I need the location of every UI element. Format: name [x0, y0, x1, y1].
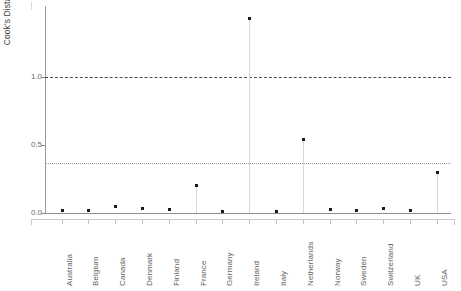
x-tick-label-denmark: Denmark	[146, 253, 154, 286]
y-tick-mark	[41, 213, 45, 214]
x-tick-label-australia: Australia	[66, 254, 74, 286]
stem-line	[437, 173, 438, 213]
data-point	[87, 209, 90, 212]
x-axis-zero-line	[45, 213, 451, 214]
x-tick-mark	[222, 220, 223, 224]
x-tick-label-sweden: Sweden	[360, 256, 368, 286]
y-tick-label: 0.5	[20, 141, 42, 149]
x-tick-label-france: France	[200, 261, 208, 287]
data-point	[141, 207, 144, 210]
x-tick-mark	[276, 220, 277, 224]
x-tick-label-netherlands: Netherlands	[307, 242, 315, 286]
x-tick-mark	[303, 220, 304, 224]
x-tick-mark	[410, 220, 411, 224]
y-tick-1.0: 1.0	[20, 73, 42, 81]
x-tick-label-norway: Norway	[334, 258, 342, 286]
data-point	[382, 207, 385, 210]
stem-line	[249, 19, 250, 213]
x-tick-label-ireland: Ireland	[253, 261, 261, 286]
x-tick-label-canada: Canada	[119, 257, 127, 286]
reference-line-threshold-low	[45, 163, 451, 164]
plot-outer-border-bottom	[31, 219, 455, 220]
x-tick-label-belgium: Belgium	[92, 256, 100, 286]
y-tick-label: 0.0	[20, 209, 42, 217]
data-point	[61, 209, 64, 212]
x-tick-mark	[437, 220, 438, 224]
y-tick-mark	[41, 145, 45, 146]
x-tick-label-germany: Germany	[226, 252, 234, 286]
data-point	[409, 209, 412, 212]
y-tick-0.5: 0.5	[20, 141, 42, 149]
x-tick-label-uk: UK	[414, 275, 422, 286]
plot-outer-border-left	[31, 219, 32, 225]
data-point	[168, 208, 171, 211]
reference-line-threshold-high	[45, 77, 451, 78]
y-tick-label: 1.0	[20, 73, 42, 81]
data-point	[114, 205, 117, 208]
x-tick-label-switzerland: Switzerland	[387, 244, 395, 286]
x-tick-mark	[169, 220, 170, 224]
data-point	[275, 210, 278, 213]
data-point	[436, 171, 439, 174]
x-tick-mark	[88, 220, 89, 224]
x-tick-label-italy: Italy	[280, 271, 288, 286]
x-tick-mark	[330, 220, 331, 224]
x-tick-mark	[383, 220, 384, 224]
cooks-distance-chart: Cook's Distance 0.00.51.0 AustraliaBelgi…	[0, 0, 461, 291]
stem-line	[303, 140, 304, 213]
plot-outer-border-right	[454, 219, 455, 225]
x-tick-label-usa: USA	[441, 269, 449, 286]
stem-line	[196, 186, 197, 213]
data-point	[195, 184, 198, 187]
x-tick-mark	[249, 220, 250, 224]
data-point	[248, 17, 251, 20]
x-tick-mark	[62, 220, 63, 224]
x-tick-mark	[196, 220, 197, 224]
y-axis-label: Cook's Distance	[0, 0, 14, 74]
x-tick-mark	[356, 220, 357, 224]
data-point	[355, 209, 358, 212]
x-tick-mark	[115, 220, 116, 224]
plot-top-tick	[31, 2, 32, 10]
data-point	[302, 138, 305, 141]
x-tick-mark	[142, 220, 143, 224]
y-tick-0.0: 0.0	[20, 209, 42, 217]
y-axis-line	[45, 6, 46, 214]
x-tick-label-finland: Finland	[173, 259, 181, 286]
data-point	[221, 210, 224, 213]
data-point	[329, 208, 332, 211]
